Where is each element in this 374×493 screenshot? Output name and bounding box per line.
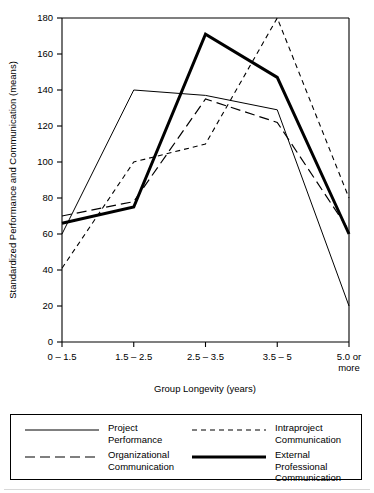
y-tick-label: 20 [42,300,53,311]
y-axis-title: Standardized Performance and Communicati… [7,61,18,299]
y-tick-label: 0 [48,336,53,347]
legend-item: Intraproject Communication [190,422,351,445]
x-tick-label: 5.0 or [337,351,361,362]
legend-swatch-long-dash [23,450,101,464]
legend-item: Project Performance [23,422,184,445]
legend-swatch-thin-solid [23,423,101,437]
figure-container: 020406080100120140160180 0 – 1.51.5 – 2.… [0,0,374,493]
y-tick-label: 60 [42,228,53,239]
series-lines [62,18,349,306]
y-tick-label: 140 [37,84,53,95]
y-axis-tick-labels: 020406080100120140160180 [37,12,53,347]
x-tick-label: 2.5 – 3.5 [187,351,224,362]
legend-swatch-short-dash [190,423,268,437]
legend-label: External Professional Communication [275,449,351,484]
series-line-0 [62,90,349,306]
series-line-3 [62,34,349,234]
series-line-2 [62,99,349,230]
legend: Project PerformanceIntraproject Communic… [10,414,362,480]
line-chart: 020406080100120140160180 0 – 1.51.5 – 2.… [0,0,374,410]
x-axis-title: Group Longevity (years) [154,383,256,394]
x-axis-tick-marks [62,342,349,347]
y-tick-label: 160 [37,48,53,59]
y-tick-label: 120 [37,120,53,131]
x-tick-label: 3.5 – 5 [263,351,292,362]
x-tick-label: 1.5 – 2.5 [115,351,152,362]
y-tick-label: 80 [42,192,53,203]
legend-swatch-thick-solid [190,450,268,464]
y-tick-label: 180 [37,12,53,23]
x-tick-label: 0 – 1.5 [47,351,76,362]
y-tick-label: 100 [37,156,53,167]
legend-label: Organizational Communication [108,449,174,472]
legend-item: Organizational Communication [23,449,184,484]
page-bottom-rule [4,489,370,490]
x-tick-label: more [338,362,360,373]
x-axis-tick-labels: 0 – 1.51.5 – 2.52.5 – 3.53.5 – 55.0 ormo… [47,351,361,373]
y-axis-tick-marks [57,18,62,342]
y-tick-label: 40 [42,264,53,275]
legend-item: External Professional Communication [190,449,351,484]
legend-label: Intraproject Communication [275,422,341,445]
legend-label: Project Performance [108,422,162,445]
